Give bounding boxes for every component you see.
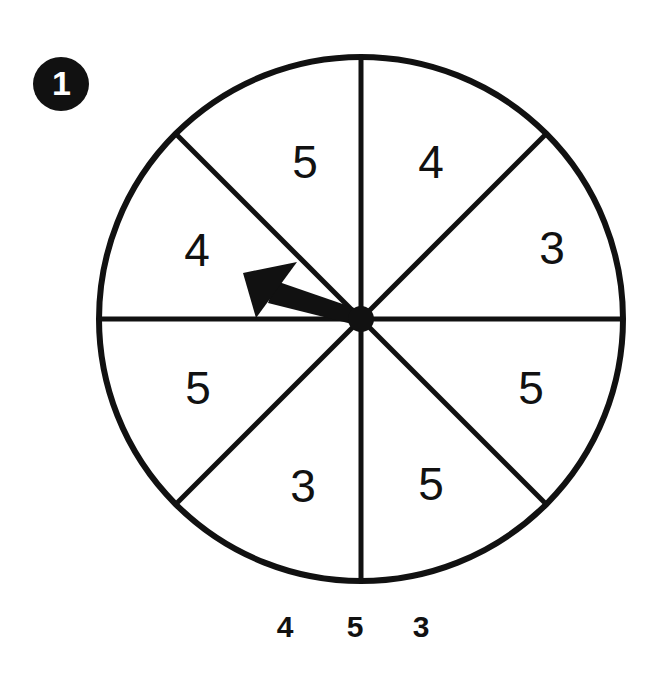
sector-label-4: 5: [418, 458, 444, 510]
sector-label-2: 3: [539, 222, 565, 274]
sector-label-1: 4: [418, 136, 444, 188]
sector-label-3: 5: [518, 362, 544, 414]
outcome-key-item-0: 4: [277, 610, 294, 643]
outcome-key-item-2: 3: [413, 610, 430, 643]
sector-label-0: 5: [292, 136, 318, 188]
sector-label-6: 5: [185, 362, 211, 414]
spinner-graphic[interactable]: 5 4 3 5 5 3 5 4 4 5 3: [0, 0, 669, 673]
spinner-figure: 1 5 4 3 5 5 3 5 4: [0, 0, 669, 673]
spinner-wheel[interactable]: 5 4 3 5 5 3 5 4 4 5 3: [0, 0, 669, 673]
sector-label-7: 4: [184, 224, 210, 276]
outcome-key-item-1: 5: [347, 610, 364, 643]
spinner-hub: [348, 306, 374, 332]
sector-label-5: 3: [290, 460, 316, 512]
